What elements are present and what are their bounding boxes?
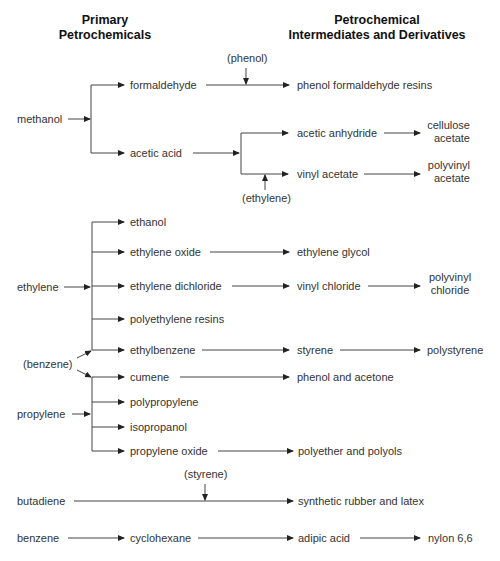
node-styrene: styrene xyxy=(297,344,333,357)
node-polyethylene-resins: polyethylene resins xyxy=(130,313,224,326)
node-methanol: methanol xyxy=(17,113,62,126)
node-acetic-acid: acetic acid xyxy=(130,147,182,160)
node-ethylbenzene: ethylbenzene xyxy=(130,344,195,357)
node-phenol-formaldehyde-resins: phenol formaldehyde resins xyxy=(297,79,432,92)
node-line: polyvinyl xyxy=(425,159,470,172)
node-ethylene: ethylene xyxy=(17,281,59,294)
reagent-styrene: (styrene) xyxy=(184,468,227,481)
node-ethanol: ethanol xyxy=(130,216,166,229)
node-synthetic-rubber-and-latex: synthetic rubber and latex xyxy=(298,495,424,508)
node-ethylene-dichloride: ethylene dichloride xyxy=(130,280,222,293)
node-butadiene: butadiene xyxy=(17,495,65,508)
node-acetic-anhydride: acetic anhydride xyxy=(297,127,377,140)
node-formaldehyde: formaldehyde xyxy=(130,79,197,92)
node-vinyl-acetate: vinyl acetate xyxy=(297,168,358,181)
petrochemical-flow-diagram: Primary Petrochemicals Petrochemical Int… xyxy=(0,0,500,561)
header-line: Intermediates and Derivatives xyxy=(262,28,492,43)
node-polyvinyl-acetate: polyvinyl acetate xyxy=(425,159,470,185)
node-ethylene-glycol: ethylene glycol xyxy=(297,246,370,259)
node-cumene: cumene xyxy=(130,371,169,384)
node-line: chloride xyxy=(425,284,475,297)
node-polyvinyl-chloride: polyvinyl chloride xyxy=(425,271,475,297)
node-ethylene-oxide: ethylene oxide xyxy=(130,246,201,259)
header-primary-petrochemicals: Primary Petrochemicals xyxy=(50,13,160,43)
node-isopropanol: isopropanol xyxy=(130,421,187,434)
node-nylon-6-6: nylon 6,6 xyxy=(428,532,473,545)
reagent-ethylene: (ethylene) xyxy=(242,192,291,205)
header-line: Petrochemical xyxy=(262,13,492,28)
node-polypropylene: polypropylene xyxy=(130,396,199,409)
header-line: Petrochemicals xyxy=(50,28,160,43)
reagent-phenol: (phenol) xyxy=(227,52,267,65)
node-polystyrene: polystyrene xyxy=(427,344,483,357)
node-line: cellulose xyxy=(425,119,470,132)
node-cellulose-acetate: cellulose acetate xyxy=(425,119,470,145)
node-line: acetate xyxy=(425,132,470,145)
node-line: polyvinyl xyxy=(425,271,475,284)
node-adipic-acid: adipic acid xyxy=(298,532,350,545)
node-vinyl-chloride: vinyl chloride xyxy=(297,280,361,293)
header-intermediates-derivatives: Petrochemical Intermediates and Derivati… xyxy=(262,13,492,43)
node-line: acetate xyxy=(425,172,470,185)
node-benzene: benzene xyxy=(17,532,59,545)
node-propylene-oxide: propylene oxide xyxy=(130,445,208,458)
node-polyether-and-polyols: polyether and polyols xyxy=(298,445,402,458)
node-phenol-and-acetone: phenol and acetone xyxy=(297,371,394,384)
node-cyclohexane: cyclohexane xyxy=(130,532,191,545)
node-propylene: propylene xyxy=(17,408,65,421)
reagent-benzene: (benzene) xyxy=(23,358,73,371)
header-line: Primary xyxy=(50,13,160,28)
